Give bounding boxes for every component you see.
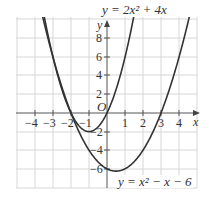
y-tick-neg4: −4	[90, 144, 103, 156]
y-tick-neg2: −2	[90, 126, 103, 138]
y-axis-arrow	[104, 20, 110, 27]
x-tick-4: 4	[176, 117, 182, 129]
x-tick-neg4: −4	[25, 117, 38, 129]
y-axis-label: y	[97, 19, 102, 31]
origin-label: O	[97, 100, 106, 113]
y-tick-6: 6	[96, 51, 102, 63]
y-tick-neg6: −6	[90, 163, 103, 175]
x-axis-label: x	[193, 116, 198, 128]
equation-label-1: y = 2x² + 4x	[102, 3, 167, 16]
y-tick-8: 8	[96, 32, 102, 44]
y-tick-2: 2	[96, 88, 102, 100]
x-tick-1: 1	[122, 117, 128, 129]
x-tick-2: 2	[140, 117, 146, 129]
y-tick-4: 4	[96, 69, 102, 81]
x-tick-neg2: −2	[61, 117, 74, 129]
x-tick-3: 3	[158, 117, 164, 129]
equation-label-2: y = x² − x − 6	[117, 175, 193, 188]
x-tick-neg3: −3	[43, 117, 56, 129]
